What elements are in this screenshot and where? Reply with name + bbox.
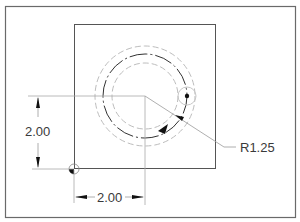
drawing-canvas: 2.00 2.00 R1.25 — [0, 0, 300, 222]
vertical-dimension-label: 2.00 — [25, 124, 50, 139]
horizontal-dimension-label: 2.00 — [97, 190, 122, 205]
arrow-up-icon — [36, 97, 40, 108]
arrow-left-icon — [75, 195, 87, 199]
tool-center-dot — [185, 94, 189, 98]
radius-dimension-label: R1.25 — [240, 140, 275, 155]
outer-frame — [6, 7, 296, 218]
arrow-right-icon — [132, 195, 144, 199]
arrow-down-icon — [36, 157, 40, 168]
origin-quadrant-icon — [69, 169, 74, 174]
radius-leader-line — [145, 96, 224, 147]
